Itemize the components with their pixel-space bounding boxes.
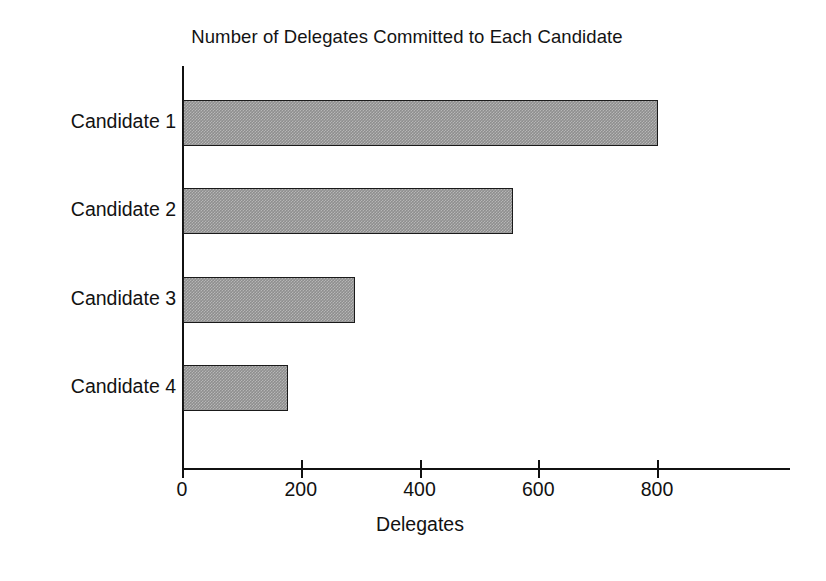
bar-1 bbox=[183, 100, 658, 146]
x-axis-title: Delegates bbox=[182, 513, 658, 536]
bar-2 bbox=[183, 188, 513, 234]
x-tick-label-0: 0 bbox=[177, 478, 188, 501]
x-tick-label-600: 600 bbox=[522, 478, 555, 501]
bar-4 bbox=[183, 365, 288, 411]
x-tick-600 bbox=[538, 460, 540, 478]
x-tick-800 bbox=[657, 460, 659, 478]
bar-3 bbox=[183, 277, 355, 323]
chart-title-text: Number of Delegates Committed to Each Ca… bbox=[191, 26, 622, 48]
category-label-4: Candidate 4 bbox=[0, 375, 176, 398]
category-label-3: Candidate 3 bbox=[0, 287, 176, 310]
x-tick-label-800: 800 bbox=[641, 478, 674, 501]
x-tick-label-400: 400 bbox=[403, 478, 436, 501]
plot-area bbox=[182, 66, 790, 470]
category-label-2: Candidate 2 bbox=[0, 198, 176, 221]
bar-chart: Number of Delegates Committed to Each Ca… bbox=[0, 0, 826, 581]
x-tick-label-200: 200 bbox=[284, 478, 317, 501]
x-tick-200 bbox=[301, 460, 303, 478]
x-tick-400 bbox=[420, 460, 422, 478]
x-tick-0 bbox=[182, 460, 184, 478]
chart-title: Number of Delegates Committed to Each Ca… bbox=[0, 26, 826, 48]
x-axis-line bbox=[182, 468, 790, 470]
category-label-1: Candidate 1 bbox=[0, 110, 176, 133]
